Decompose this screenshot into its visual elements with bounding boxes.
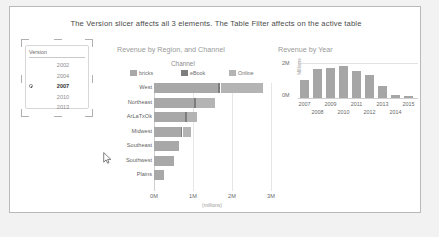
legend-label: eBook	[190, 70, 205, 76]
chart-title: Revenue by Region, and Channel	[117, 45, 225, 54]
x-axis-tick-2010: 2010	[338, 109, 350, 115]
slicer-header: Version	[29, 49, 85, 58]
bar-segment-bricks[interactable]	[154, 170, 164, 180]
revenue-by-year-chart[interactable]: Revenue by Year 2M 0M Millions 2007 2008…	[276, 45, 426, 135]
selection-handle-bottom-left[interactable]	[21, 109, 29, 117]
slicer-item-2004[interactable]: 2004	[29, 71, 87, 82]
x-axis-tick-2007: 2007	[299, 101, 311, 107]
chart-plot-area: West Northeast ArLaTxOk	[154, 83, 271, 191]
slicer-item-label: 2002	[57, 62, 69, 68]
x-axis-tick-2012: 2012	[364, 109, 376, 115]
legend-swatch-icon	[181, 70, 188, 76]
legend-label: bricks	[139, 70, 153, 76]
slicer-item-2007[interactable]: 2007	[29, 81, 87, 92]
slicer-item-2002[interactable]: 2002	[29, 60, 87, 71]
bar-segment-bricks[interactable]	[154, 112, 185, 122]
bar-2008[interactable]	[313, 69, 322, 98]
revenue-by-region-and-channel-chart[interactable]: Revenue by Region, and Channel Channel b…	[114, 45, 274, 205]
x-axis-tick-2008: 2008	[312, 109, 324, 115]
x-axis-label: (millions)	[202, 202, 222, 208]
selection-handle-top-middle[interactable]	[54, 39, 62, 41]
legend-item-online[interactable]: Online	[229, 70, 254, 78]
bar-2007[interactable]	[300, 80, 309, 98]
version-slicer[interactable]: Version 2002 2004 2007 2010 2013	[21, 39, 93, 117]
bar-segment-online[interactable]	[187, 112, 198, 122]
x-axis-tick-2m: 2M	[228, 193, 236, 199]
slicer-item-2010[interactable]: 2010	[29, 92, 87, 103]
legend-item-ebook[interactable]: eBook	[181, 70, 205, 78]
x-axis-tick-2014: 2014	[390, 109, 402, 115]
slicer-item-list[interactable]: 2002 2004 2007 2010 2013	[29, 60, 87, 113]
category-label-plains: Plains	[114, 171, 152, 177]
x-axis-tick-2009: 2009	[325, 101, 337, 107]
bar-segment-bricks[interactable]	[154, 141, 179, 151]
category-label-southwest: Southwest	[114, 157, 152, 163]
radio-selected-icon	[29, 84, 33, 88]
slicer-item-label: 2010	[57, 94, 69, 100]
selection-handle-middle-right[interactable]	[91, 75, 93, 83]
bar-2013[interactable]	[378, 86, 387, 98]
x-axis-tick-2015: 2015	[403, 101, 415, 107]
x-axis-tick-3m: 3M	[267, 193, 275, 199]
bar-segment-bricks[interactable]	[154, 127, 181, 137]
bar-segment-bricks[interactable]	[154, 98, 194, 108]
category-label-southeast: Southeast	[114, 142, 152, 148]
bar-2009[interactable]	[326, 68, 335, 98]
axis-baseline	[298, 98, 418, 99]
legend-label: Online	[238, 70, 254, 76]
category-label-midwest: Midwest	[114, 128, 152, 134]
x-axis-tick-1m: 1M	[189, 193, 197, 199]
bar-segment-online[interactable]	[196, 98, 216, 108]
bar-2014[interactable]	[391, 95, 400, 98]
y-axis-tick-2m: 2M	[282, 60, 416, 66]
bar-segment-online[interactable]	[221, 83, 263, 93]
bar-segment-bricks[interactable]	[154, 83, 218, 93]
gridline-3m	[271, 83, 272, 191]
x-axis-tick-2011: 2011	[351, 101, 363, 107]
bar-2011[interactable]	[352, 71, 361, 98]
slicer-item-2013[interactable]: 2013	[29, 102, 87, 113]
gridline-2m	[232, 83, 233, 191]
report-panel: The Version slicer affects all 3 element…	[9, 6, 421, 213]
slicer-item-label: 2013	[57, 104, 69, 110]
page-title: The Version slicer affects all 3 element…	[10, 19, 422, 28]
legend-swatch-icon	[229, 70, 236, 76]
slicer-item-label: 2004	[57, 73, 69, 79]
x-axis-tick-2013: 2013	[377, 101, 389, 107]
bar-2012[interactable]	[365, 75, 374, 98]
legend-swatch-icon	[130, 70, 137, 76]
chart-plot-area: 2M 0M Millions 2007 2008 2009 2010 2011 …	[298, 63, 418, 99]
slicer-item-label: 2007	[57, 83, 69, 89]
x-axis-tick-0m: 0M	[150, 193, 158, 199]
category-label-arlatxok: ArLaTxOk	[114, 113, 152, 119]
bar-segment-bricks[interactable]	[154, 156, 174, 166]
bar-2015[interactable]	[404, 96, 413, 98]
category-label-northeast: Northeast	[114, 99, 152, 105]
chart-title: Revenue by Year	[278, 45, 333, 54]
mouse-cursor-icon	[103, 152, 112, 164]
chart-legend: bricks eBook Online	[130, 70, 270, 78]
bar-segment-online[interactable]	[183, 127, 191, 137]
category-label-west: West	[114, 84, 152, 90]
screenshot-root: The Version slicer affects all 3 element…	[0, 0, 439, 237]
selection-handle-bottom-middle[interactable]	[54, 115, 62, 117]
y-axis-label: Millions	[296, 58, 302, 75]
legend-title: Channel	[171, 60, 195, 67]
bar-2010[interactable]	[339, 66, 348, 98]
legend-item-bricks[interactable]: bricks	[130, 70, 153, 78]
selection-handle-middle-left[interactable]	[21, 75, 23, 83]
